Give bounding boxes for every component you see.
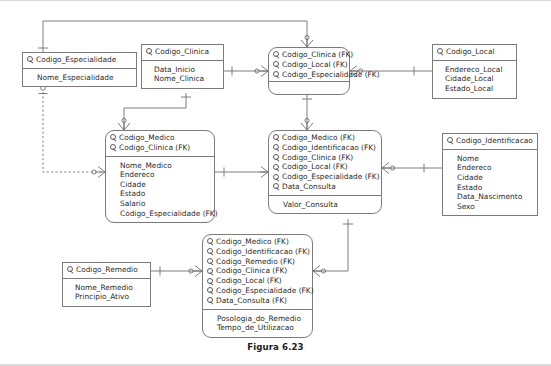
attribute-row: Endereco_Local — [445, 65, 512, 75]
attribute-row: Tempo_de_Utilizacao — [217, 323, 308, 333]
link-consulta-prescricao — [313, 219, 353, 277]
key-field: Codigo_Especialidade — [26, 55, 132, 65]
key-icon — [206, 238, 214, 246]
key-icon — [272, 134, 280, 142]
link-medico-consulta — [215, 167, 268, 178]
attribute-row: Cidade — [120, 180, 210, 190]
key-icon — [206, 287, 214, 295]
key-icon — [272, 183, 280, 191]
key-field: Codigo_Especialidade (FK) — [272, 172, 377, 182]
field-label: Codigo_Medico (FK) — [216, 237, 289, 247]
attribute-row: Nome_Medico — [120, 161, 210, 171]
entity-clinica[interactable]: Codigo_Clinica Data_Inicio Nome_Clinica — [141, 44, 224, 89]
key-field: Data_Consulta (FK) — [206, 296, 308, 306]
key-icon — [206, 297, 214, 305]
entity-consulta[interactable]: Codigo_Medico (FK) Codigo_Identificacao … — [268, 130, 382, 214]
entity-remedio[interactable]: Codigo_Remedio Nome_Remedio Principio_At… — [62, 262, 151, 307]
key-icon — [26, 56, 34, 64]
key-icon — [272, 70, 280, 78]
key-field: Codigo_Clinica (FK) — [272, 50, 345, 60]
entity-especialidade-clinica-attributes — [269, 82, 349, 90]
key-field: Codigo_Local (FK) — [272, 162, 377, 172]
attribute-row: Data_Inicio — [154, 65, 219, 75]
key-icon — [272, 173, 280, 181]
key-icon — [272, 163, 280, 171]
field-label: Codigo_Especialidade (FK) — [216, 286, 314, 296]
entity-prescricao-header: Codigo_Medico (FK) Codigo_Identificacao … — [203, 235, 312, 310]
er-diagram-canvas: Codigo_Especialidade Nome_Especialidade … — [0, 0, 551, 366]
field-label: Codigo_Local (FK) — [216, 276, 282, 286]
key-icon — [66, 266, 74, 274]
link-clinica-medico — [118, 93, 191, 130]
attribute-row: Estado_Local — [445, 84, 512, 94]
entity-consulta-header: Codigo_Medico (FK) Codigo_Identificacao … — [269, 131, 381, 196]
link-consulta-paciente — [382, 163, 442, 174]
key-icon — [272, 61, 280, 69]
field-label: Codigo_Medico (FK) — [282, 133, 355, 143]
key-field: Codigo_Local (FK) — [272, 60, 345, 70]
entity-consulta-attributes: Valor_Consulta — [269, 196, 381, 214]
entity-paciente-attributes: Nome Endereco Cidade Estado Data_Nascime… — [443, 150, 537, 216]
key-field: Codigo_Medico (FK) — [206, 237, 308, 247]
entity-especialidade-header: Codigo_Especialidade — [23, 53, 136, 69]
attribute-row: Nome_Especialidade — [37, 73, 132, 83]
key-icon — [436, 48, 444, 56]
field-label: Codigo_Identificacao (FK) — [282, 143, 376, 153]
entity-local-attributes: Endereco_Local Cidade_Local Estado_Local — [433, 61, 516, 98]
field-label: Codigo_Clinica (FK) — [119, 143, 190, 153]
attribute-row: Cidade — [457, 173, 533, 183]
field-label: Codigo_Especialidade — [36, 55, 116, 65]
field-label: Codigo_Identificacao — [456, 136, 533, 146]
entity-local-header: Codigo_Local — [433, 45, 516, 61]
field-label: Codigo_Identificacao (FK) — [216, 247, 310, 257]
entity-medico[interactable]: Codigo_Medico Codigo_Clinica (FK) Nome_M… — [105, 130, 215, 223]
field-label: Codigo_Medico — [119, 133, 175, 143]
key-field: Codigo_Clinica — [145, 47, 219, 57]
attribute-row: Estado — [120, 189, 210, 199]
entity-especialidade[interactable]: Codigo_Especialidade Nome_Especialidade — [22, 52, 137, 87]
key-field: Codigo_Local (FK) — [206, 276, 308, 286]
key-icon — [206, 277, 214, 285]
entity-local[interactable]: Codigo_Local Endereco_Local Cidade_Local… — [432, 44, 517, 99]
key-field: Data_Consulta — [272, 182, 377, 192]
attribute-row: Cidade_Local — [445, 74, 512, 84]
key-field: Codigo_Remedio (FK) — [206, 257, 308, 267]
entity-especialidade-clinica[interactable]: Codigo_Clinica (FK) Codigo_Local (FK) Co… — [268, 47, 350, 95]
entity-prescricao[interactable]: Codigo_Medico (FK) Codigo_Identificacao … — [202, 234, 313, 338]
attribute-row: Endereco — [457, 163, 533, 173]
key-icon — [446, 137, 454, 145]
field-label: Data_Consulta (FK) — [216, 296, 287, 306]
key-field: Codigo_Medico — [109, 133, 210, 143]
attribute-row: Codigo_Especialidade (FK) — [120, 209, 210, 219]
attribute-row: Nome — [457, 154, 533, 164]
attribute-row: Principio_Ativo — [75, 292, 146, 302]
entity-paciente-header: Codigo_Identificacao — [443, 134, 537, 150]
attribute-row: Salario — [120, 199, 210, 209]
field-label: Codigo_Clinica (FK) — [282, 153, 353, 163]
field-label: Codigo_Local (FK) — [282, 60, 348, 70]
field-label: Codigo_Remedio — [76, 265, 138, 275]
key-field: Codigo_Clinica (FK) — [109, 143, 210, 153]
key-icon — [145, 48, 153, 56]
attribute-row: Estado — [457, 183, 533, 193]
link-especialidade-medico — [43, 92, 105, 172]
field-label: Codigo_Especialidade (FK) — [282, 70, 380, 80]
entity-medico-header: Codigo_Medico Codigo_Clinica (FK) — [106, 131, 214, 157]
entity-remedio-header: Codigo_Remedio — [63, 263, 150, 279]
key-icon — [272, 51, 280, 59]
field-label: Data_Consulta — [282, 182, 336, 192]
field-label: Codigo_Clinica (FK) — [216, 266, 287, 276]
key-field: Codigo_Clinica (FK) — [206, 266, 308, 276]
entity-especialidade-attributes: Nome_Especialidade — [23, 69, 136, 87]
key-field: Codigo_Clinica (FK) — [272, 153, 377, 163]
key-icon — [206, 267, 214, 275]
key-field: Codigo_Especialidade (FK) — [206, 286, 308, 296]
link-clinica-especialidade-clinica — [224, 66, 268, 77]
entity-prescricao-attributes: Posologia_do_Remedio Tempo_de_Utilizacao — [203, 310, 312, 337]
attribute-row: Data_Nascimento — [457, 192, 533, 202]
field-label: Codigo_Clinica (FK) — [282, 50, 353, 60]
link-especialidade-clinica-consulta — [301, 95, 313, 130]
key-field: Codigo_Especialidade (FK) — [272, 70, 345, 80]
entity-paciente[interactable]: Codigo_Identificacao Nome Endereco Cidad… — [442, 133, 538, 216]
attribute-row: Nome_Remedio — [75, 283, 146, 293]
